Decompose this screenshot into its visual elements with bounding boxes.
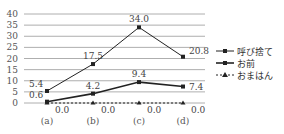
data-label: 7.4	[189, 82, 204, 92]
series-line	[47, 27, 183, 91]
y-axis-ticks: 0510152025303540	[7, 9, 19, 108]
data-label: 9.4	[132, 69, 147, 79]
y-tick-label: 20	[7, 54, 19, 64]
y-tick-label: 5	[12, 87, 18, 97]
square-marker-icon	[137, 25, 141, 29]
square-marker-icon	[137, 80, 141, 84]
y-tick-label: 35	[7, 20, 19, 30]
data-label: 20.8	[189, 46, 209, 56]
legend: 呼び捨て お前 おまはん	[216, 45, 273, 81]
square-marker-icon	[91, 92, 95, 96]
square-marker-icon	[45, 89, 49, 93]
x-tick-label: (d)	[177, 116, 190, 126]
data-label: 0.6	[29, 90, 44, 100]
y-tick-label: 25	[7, 42, 19, 52]
square-marker-icon	[216, 59, 234, 67]
x-tick-label: (c)	[133, 116, 145, 126]
triangle-marker-icon	[216, 71, 234, 79]
x-tick-label: (a)	[41, 116, 53, 126]
legend-item-omahan: おまはん	[216, 69, 273, 81]
data-label: 5.4	[29, 79, 44, 89]
data-label: 0.0	[191, 105, 206, 115]
gridlines	[24, 14, 205, 103]
triangle-marker-icon	[181, 101, 186, 105]
square-marker-icon	[91, 62, 95, 66]
data-label: 34.0	[129, 14, 149, 24]
data-label: 0.0	[101, 105, 116, 115]
y-tick-label: 30	[7, 31, 19, 41]
data-label: 17.5	[83, 51, 103, 61]
y-tick-label: 10	[7, 76, 19, 86]
series-lines	[45, 25, 186, 104]
y-tick-label: 15	[7, 65, 19, 75]
x-axis-ticks: (a)(b)(c)(d)	[41, 116, 190, 126]
legend-label: おまはん	[237, 69, 273, 82]
data-label: 0.0	[147, 105, 162, 115]
legend-item-yobisute: 呼び捨て	[216, 45, 273, 57]
square-marker-icon	[181, 55, 185, 59]
data-label: 4.2	[86, 81, 100, 91]
x-tick-label: (b)	[87, 116, 100, 126]
square-marker-icon	[216, 47, 234, 55]
y-tick-label: 0	[12, 98, 18, 108]
data-label: 0.0	[55, 105, 70, 115]
legend-item-omae: お前	[216, 57, 273, 69]
y-tick-label: 40	[7, 9, 19, 19]
square-marker-icon	[181, 85, 185, 89]
